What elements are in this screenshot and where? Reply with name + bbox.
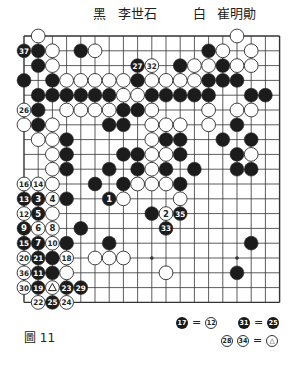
black-stone xyxy=(131,74,145,88)
black-stone xyxy=(60,162,74,176)
black-stone xyxy=(117,118,131,132)
white-stone xyxy=(188,59,202,73)
black-stone xyxy=(46,251,60,265)
move-number: 37 xyxy=(19,47,29,56)
move-number: 27 xyxy=(133,62,143,71)
note-28-34-equals-triangle: 28 34 = △ xyxy=(221,334,278,347)
black-stone xyxy=(60,133,74,147)
white-stone xyxy=(117,88,131,102)
black-stone xyxy=(230,266,244,280)
move-number: 15 xyxy=(19,239,29,248)
black-stone xyxy=(259,88,273,102)
white-stone xyxy=(131,177,145,191)
move-number: 26 xyxy=(19,106,29,115)
move-number: 23 xyxy=(62,284,72,293)
white-stone xyxy=(145,74,159,88)
move-number: 3 xyxy=(35,194,41,204)
black-stone-17-icon: 17 xyxy=(176,317,188,329)
black-stone xyxy=(60,88,74,102)
white-stone xyxy=(145,103,159,117)
black-stone xyxy=(230,162,244,176)
white-stone xyxy=(173,118,187,132)
go-board: 3727322616141334112523596833157102021183… xyxy=(0,0,297,320)
white-stone xyxy=(102,251,116,265)
move-number: 22 xyxy=(33,298,43,307)
triangle-stone-icon: △ xyxy=(266,335,278,347)
white-stone xyxy=(46,148,60,162)
white-stone xyxy=(202,59,216,73)
move-number: 9 xyxy=(21,223,27,233)
move-number: 16 xyxy=(19,180,29,189)
white-stone xyxy=(46,59,60,73)
white-stone xyxy=(88,251,102,265)
white-stone xyxy=(46,207,60,221)
move-number: 18 xyxy=(62,254,72,263)
white-stone xyxy=(244,44,258,58)
white-stone xyxy=(145,133,159,147)
black-stone xyxy=(17,74,31,88)
white-stone xyxy=(244,59,258,73)
white-stone xyxy=(117,251,131,265)
black-stone-25-icon: 25 xyxy=(267,317,279,329)
white-stone xyxy=(46,133,60,147)
white-stone-34-icon: 34 xyxy=(237,335,249,347)
move-number: 5 xyxy=(35,209,41,219)
black-stone xyxy=(173,133,187,147)
black-stone xyxy=(216,133,230,147)
white-stone xyxy=(159,266,173,280)
move-number: 4 xyxy=(49,194,55,204)
white-stone xyxy=(74,103,88,117)
move-number: 36 xyxy=(19,269,29,278)
black-stone xyxy=(230,148,244,162)
equals-sign: = xyxy=(254,316,263,329)
black-stone xyxy=(117,148,131,162)
move-number: 33 xyxy=(161,224,171,233)
black-stone xyxy=(216,74,230,88)
white-stone xyxy=(188,74,202,88)
move-number: 14 xyxy=(33,180,43,189)
white-stone xyxy=(46,177,60,191)
white-stone-12-icon: 12 xyxy=(205,317,217,329)
equals-sign: = xyxy=(192,316,201,329)
white-stone xyxy=(145,118,159,132)
black-stone xyxy=(188,88,202,102)
black-stone xyxy=(202,74,216,88)
black-stone xyxy=(244,133,258,147)
black-stone xyxy=(145,88,159,102)
black-stone xyxy=(244,162,258,176)
white-stone xyxy=(117,74,131,88)
white-stone xyxy=(230,103,244,117)
black-stone xyxy=(173,148,187,162)
figure-caption: 圖 11 xyxy=(24,328,55,345)
black-stone xyxy=(216,59,230,73)
move-number: 25 xyxy=(47,298,57,307)
black-stone xyxy=(117,103,131,117)
white-stone xyxy=(131,88,145,102)
star-point xyxy=(235,256,239,260)
white-stone xyxy=(46,162,60,176)
black-stone xyxy=(60,192,74,206)
white-stone xyxy=(216,44,230,58)
white-stone xyxy=(88,103,102,117)
black-stone xyxy=(244,236,258,250)
black-stone xyxy=(173,177,187,191)
black-stone xyxy=(131,103,145,117)
black-stone xyxy=(102,118,116,132)
move-number: 2 xyxy=(163,209,169,219)
equals-sign: = xyxy=(253,334,262,347)
black-stone xyxy=(145,207,159,221)
move-number: 10 xyxy=(47,239,57,248)
move-number: 20 xyxy=(19,254,29,263)
black-stone xyxy=(88,177,102,191)
star-point xyxy=(150,256,154,260)
move-number: 6 xyxy=(35,223,41,233)
black-stone xyxy=(230,74,244,88)
black-stone xyxy=(244,88,258,102)
move-number: 12 xyxy=(19,210,29,219)
white-stone xyxy=(31,133,45,147)
black-stone xyxy=(46,88,60,102)
white-stone xyxy=(159,177,173,191)
black-stone xyxy=(230,118,244,132)
black-stone xyxy=(74,222,88,236)
black-stone xyxy=(88,88,102,102)
